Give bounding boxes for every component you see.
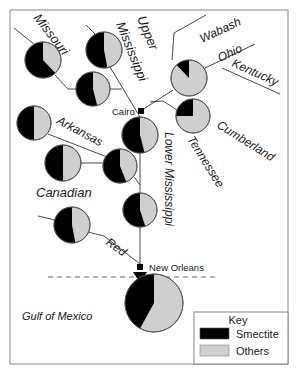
pie-upper-mississippi [86,32,122,68]
pie-ohio [171,60,207,96]
legend-others-swatch [200,345,229,356]
pie-arkansas-confluence [103,149,137,183]
legend-smectite-swatch [200,328,229,339]
pie-missouri-upper-confluence [76,72,110,106]
pie-lower-mississippi [123,193,157,227]
cairo-label: Cairo [112,106,135,117]
clay-mineral-river-diagram: Cairo New Orleans Missouri Upper Mississ… [0,0,298,373]
new-orleans-marker-icon [137,264,143,270]
pie-gulf-of-mexico [125,274,183,332]
pie-arkansas [17,106,51,140]
legend-title: Key [229,314,248,326]
cairo-marker-icon [138,108,144,114]
legend-smectite-label: Smectite [236,328,279,340]
legend: Key Smectite Others [194,312,288,364]
canadian-label: Canadian [36,185,92,200]
gulf-of-mexico-label: Gulf of Mexico [22,310,92,322]
pie-cumberland-tennessee [176,99,210,133]
legend-others-label: Others [236,345,270,357]
pie-canadian [45,145,81,181]
new-orleans-label: New Orleans [149,262,204,273]
pie-below-cairo [122,117,158,153]
pie-red [54,207,90,243]
lower-mississippi-label: Lower Mississippi [162,132,176,226]
